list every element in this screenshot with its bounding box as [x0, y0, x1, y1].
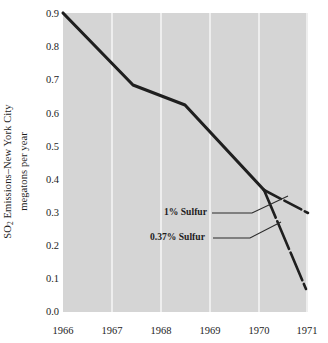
- y-tick-label-0.3: 0.3: [33, 207, 59, 218]
- x-tick-label-1970: 1970: [239, 325, 279, 336]
- x-tick-label-1968: 1968: [141, 325, 181, 336]
- chart-container: SO2 Emissions–New York City megatons per…: [0, 0, 328, 343]
- annotation-037-percent-sulfur: 0.37% Sulfur: [150, 231, 205, 242]
- y-tick-label-0.8: 0.8: [33, 41, 59, 52]
- y-tick-label-0.1: 0.1: [33, 273, 59, 284]
- y-tick-label-0.7: 0.7: [33, 74, 59, 85]
- x-tick-label-1967: 1967: [92, 325, 132, 336]
- x-tick-label-1969: 1969: [190, 325, 230, 336]
- x-tick-label-1971: 1971: [287, 325, 327, 336]
- y-tick-label-0.0: 0.0: [33, 306, 59, 317]
- y-tick-label-0.6: 0.6: [33, 108, 59, 119]
- y-tick-label-0.2: 0.2: [33, 240, 59, 251]
- y-tick-label-0.5: 0.5: [33, 141, 59, 152]
- y-tick-label-0.4: 0.4: [33, 174, 59, 185]
- annotation-1-percent-sulfur: 1% Sulfur: [164, 206, 207, 217]
- plot-area-grain: [63, 13, 308, 312]
- x-tick-label-1966: 1966: [43, 325, 83, 336]
- y-tick-label-0.9: 0.9: [33, 8, 59, 19]
